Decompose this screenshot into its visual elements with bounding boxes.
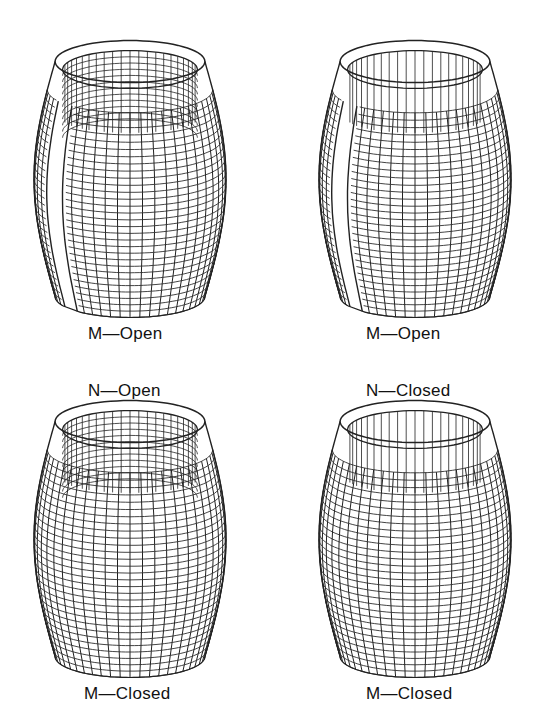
caption-line-m: M—Open bbox=[366, 324, 451, 343]
caption-line-m: M—Closed bbox=[84, 684, 170, 703]
caption-line-m: M—Closed bbox=[366, 684, 452, 703]
caption-m-closed-n-closed: M—Closed N—Closed bbox=[366, 646, 452, 703]
caption-m-closed-n-open: M—Closed N—Open bbox=[84, 646, 170, 703]
caption-line-m: M—Open bbox=[88, 324, 163, 343]
